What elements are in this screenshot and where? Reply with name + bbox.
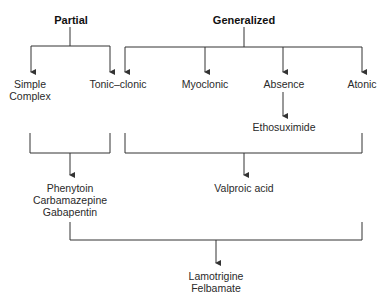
drug-phenytoin: Phenytoin [47,182,94,194]
seizure-myoclonic: Myoclonic [182,78,229,90]
drug-lamotrigine: Lamotrigine [189,270,244,282]
category-partial: Partial [54,14,88,26]
seizure-absence: Absence [264,78,305,90]
seizure-complex: Complex [9,90,50,102]
drug-ethosuximide: Ethosuximide [252,121,315,133]
drug-carbamazepine: Carbamazepine [33,194,107,206]
drug-valproic-acid: Valproic acid [214,182,273,194]
seizure-tonic-clonic: Tonic–clonic [89,78,146,90]
drug-gabapentin: Gabapentin [43,206,97,218]
category-generalized: Generalized [213,14,275,26]
seizure-atonic: Atonic [347,78,376,90]
seizure-simple: Simple [14,78,46,90]
connector-lines [0,0,387,300]
drug-felbamate: Felbamate [191,282,241,294]
